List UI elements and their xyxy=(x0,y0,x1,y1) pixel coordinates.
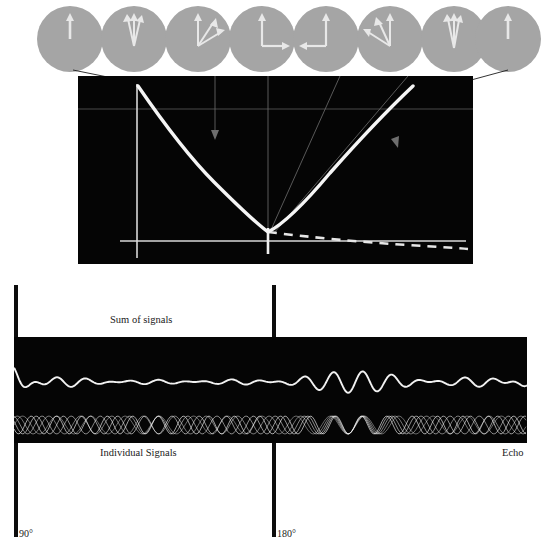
spin-vectors-5 xyxy=(293,6,359,72)
spin-vectors-1 xyxy=(37,6,103,72)
individual-signal-4 xyxy=(14,416,526,434)
label-sum-of-signals: Sum of signals xyxy=(110,314,172,325)
spin-vectors-8 xyxy=(475,6,541,72)
spin-vectors-6 xyxy=(357,6,423,72)
envelope-plot xyxy=(78,76,473,264)
sum-of-signals-trace xyxy=(14,368,527,393)
spin-circle-4 xyxy=(229,6,295,72)
signal-traces-plot xyxy=(14,337,527,443)
pulse-label-180: 180° xyxy=(277,529,296,539)
pulse-label-90: 90° xyxy=(19,529,33,539)
echo-envelope-curve xyxy=(138,86,413,232)
spin-vectors-2 xyxy=(101,6,167,72)
spin-circle-5 xyxy=(293,6,359,72)
spin-isochromat-row xyxy=(0,0,542,76)
label-individual-signals: Individual Signals xyxy=(100,447,177,458)
spin-vectors-3 xyxy=(165,6,231,72)
spin-circle-3 xyxy=(165,6,231,72)
spin-vectors-4 xyxy=(229,6,295,72)
label-echo: Echo xyxy=(502,447,524,458)
spin-circle-2 xyxy=(101,6,167,72)
signal-traces-panel xyxy=(14,337,527,443)
spin-circle-8 xyxy=(475,6,541,72)
sum-of-signals-path xyxy=(14,368,527,393)
spin-circle-6 xyxy=(357,6,423,72)
figure-canvas: 90° 180° Sum of signals Individual Signa… xyxy=(0,0,542,547)
signal-envelope-graph xyxy=(78,76,473,264)
spin-circle-1 xyxy=(37,6,103,72)
individual-signals-traces xyxy=(14,416,526,434)
